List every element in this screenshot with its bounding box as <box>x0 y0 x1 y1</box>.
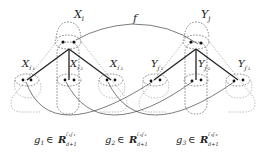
right-child-1-subregion <box>143 80 169 98</box>
left-child-label-2: Xi′₂ <box>69 58 83 71</box>
svg-text:i′₃j′₃: i′₃j′₃ <box>208 131 217 138</box>
left-child-2-dot-2 <box>73 79 76 82</box>
left-root-dot-1 <box>61 40 64 43</box>
left-child-2-dot-1 <box>64 79 67 82</box>
left-root-cap <box>56 22 81 38</box>
svg-text:∈: ∈ <box>188 134 195 145</box>
tree-mapping-diagram: Xi Yj f Xi′₁ Xi′₂ Xi′₃ Yj′₁ Yj′₂ Yj′₃ g1… <box>0 0 266 156</box>
left-middle-dashed-column <box>57 42 79 114</box>
f-label: f <box>132 12 139 25</box>
left-child-3-dot-2 <box>114 79 117 82</box>
svg-text:∈: ∈ <box>46 134 53 145</box>
svg-text:d+1: d+1 <box>66 141 77 147</box>
left-child-label-3: Xi′₃ <box>109 58 123 71</box>
svg-text:R: R <box>57 134 66 145</box>
right-child-3-dot-1 <box>233 80 236 83</box>
svg-text:d+1: d+1 <box>208 141 219 147</box>
right-child-3-subregion <box>226 80 252 98</box>
f-mapping-arc <box>76 24 198 44</box>
right-root-label: Yj <box>201 8 211 23</box>
right-root-dot-2 <box>199 41 202 44</box>
svg-text:g2: g2 <box>105 134 115 146</box>
svg-text:∈: ∈ <box>117 134 124 145</box>
left-child-3-dot-1 <box>106 79 109 82</box>
g3-arc <box>108 82 234 115</box>
right-child-label-2: Yj′₂ <box>198 58 211 72</box>
right-outer-dashed-region-3 <box>208 40 255 112</box>
right-root-dot-1 <box>189 40 192 43</box>
g-label-2: g2 ∈ R i′₂j′₂ d+1 <box>105 131 148 147</box>
right-child-label-3: Yj′₃ <box>238 58 251 72</box>
svg-text:g3: g3 <box>176 134 186 146</box>
right-child-1-dot-2 <box>159 79 162 82</box>
svg-text:i′₁j′₁: i′₁j′₁ <box>66 131 75 138</box>
left-child-1-dot-2 <box>30 79 33 82</box>
left-root-dot-2 <box>72 40 75 43</box>
svg-text:R: R <box>128 134 137 145</box>
right-child-2-dot-1 <box>191 80 194 83</box>
right-child-2-dot-2 <box>200 79 203 82</box>
svg-text:g1: g1 <box>34 134 44 146</box>
svg-text:d+1: d+1 <box>137 141 148 147</box>
g-label-1: g1 ∈ R i′₁j′₁ d+1 <box>34 131 77 147</box>
svg-text:i′₂j′₂: i′₂j′₂ <box>137 131 146 138</box>
svg-text:R: R <box>199 134 208 145</box>
left-child-1-subregion <box>15 80 41 98</box>
left-root-label: Xi <box>73 8 84 23</box>
right-child-label-1: Yj′₁ <box>151 58 163 72</box>
left-child-1-dot-1 <box>22 79 25 82</box>
g-label-3: g3 ∈ R i′₃j′₃ d+1 <box>176 131 219 147</box>
left-child-label-1: Xi′₁ <box>21 58 35 71</box>
right-root-cap <box>184 22 209 38</box>
right-child-3-dot-2 <box>242 79 245 82</box>
g2-arc <box>66 82 192 115</box>
